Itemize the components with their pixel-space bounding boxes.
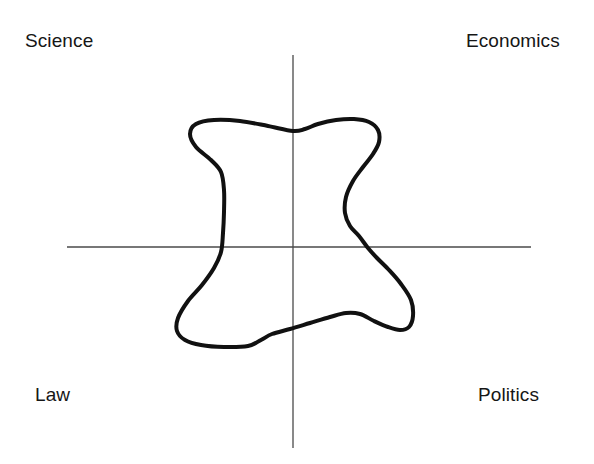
boundary-contour-path bbox=[176, 119, 413, 347]
figure-canvas: Science Economics Law Politics bbox=[0, 0, 594, 464]
contour-group bbox=[176, 119, 413, 347]
quadrant-label-science: Science bbox=[25, 31, 93, 50]
quadrant-label-economics: Economics bbox=[466, 31, 560, 50]
quadrant-label-politics: Politics bbox=[478, 385, 539, 404]
quadrant-label-law: Law bbox=[35, 385, 70, 404]
axes-group bbox=[67, 55, 531, 448]
